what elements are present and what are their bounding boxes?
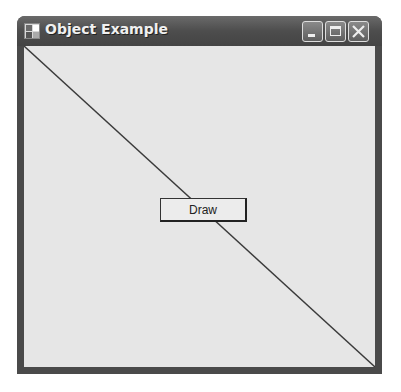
minimize-button[interactable] xyxy=(302,21,323,42)
app-icon[interactable] xyxy=(24,23,40,39)
window-title: Object Example xyxy=(45,21,168,37)
draw-button[interactable]: Draw xyxy=(160,198,247,222)
client-area: Draw xyxy=(24,46,375,367)
title-bar[interactable]: Object Example xyxy=(17,16,382,46)
maximize-button[interactable] xyxy=(325,21,346,42)
app-window: Object Example Draw xyxy=(17,16,382,374)
close-icon xyxy=(352,25,365,38)
close-button[interactable] xyxy=(348,21,369,42)
